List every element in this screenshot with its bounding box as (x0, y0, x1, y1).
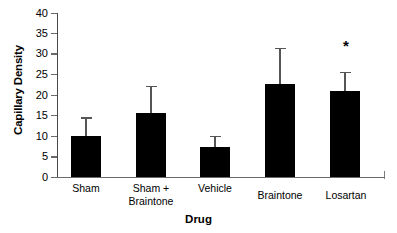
plot-area: 0 5 10 15 20 25 30 35 40 * (0, 0, 397, 233)
x-tick-label-vehicle: Vehicle (181, 182, 249, 195)
x-tick-label-braintone: Braintone (245, 189, 315, 202)
error-bar-stem-losartan (344, 72, 345, 91)
y-tick-mark (51, 177, 57, 178)
y-tick-label: 5 (12, 150, 48, 162)
bar-losartan (330, 91, 360, 177)
x-tick-label-line: Braintone (245, 189, 315, 202)
significance-asterisk: * (334, 38, 358, 53)
bar-chart-figure: Capillary Density 0 5 10 15 20 25 30 35 … (0, 0, 397, 233)
y-tick-mark (51, 95, 57, 96)
x-axis-line (57, 177, 385, 178)
y-axis-line (57, 13, 58, 178)
y-tick-label: 30 (12, 47, 48, 59)
y-tick-label: 35 (12, 27, 48, 39)
bar-vehicle (200, 147, 230, 177)
y-tick-label: 10 (12, 130, 48, 142)
x-axis-label: Drug (0, 213, 397, 225)
y-tick-label: 25 (12, 68, 48, 80)
error-bar-cap-losartan (340, 72, 351, 73)
x-tick-label-sham: Sham (52, 182, 120, 195)
y-tick-mark (51, 53, 57, 54)
bar-sham (71, 136, 101, 177)
bar-braintone (265, 84, 295, 177)
error-bar-cap-sham-braintone (146, 86, 157, 87)
y-tick-mark (51, 115, 57, 116)
y-tick-mark (51, 13, 57, 14)
x-tick-label-line: Vehicle (181, 182, 249, 195)
y-tick-mark (51, 33, 57, 34)
y-tick-label: 15 (12, 109, 48, 121)
error-bar-cap-sham (81, 117, 92, 118)
y-tick-mark (51, 74, 57, 75)
x-tick-label-line: Sham + (115, 182, 187, 195)
x-tick-label-losartan: Losartan (311, 189, 381, 202)
error-bar-stem-sham (85, 117, 86, 136)
error-bar-stem-braintone (279, 48, 280, 84)
x-tick-label-sham-braintone: Sham + Braintone (115, 182, 187, 207)
x-tick-label-line: Sham (52, 182, 120, 195)
y-tick-label: 20 (12, 89, 48, 101)
y-tick-label: 0 (12, 171, 48, 183)
error-bar-stem-vehicle (214, 136, 215, 147)
error-bar-cap-braintone (275, 48, 286, 49)
bar-sham-braintone (136, 113, 166, 177)
x-tick-label-line: Braintone (115, 195, 187, 208)
y-tick-label: 40 (12, 7, 48, 19)
y-tick-mark (51, 156, 57, 157)
x-axis-end-tick (384, 171, 385, 179)
x-tick-label-line: Losartan (311, 189, 381, 202)
y-tick-mark (51, 136, 57, 137)
error-bar-stem-sham-braintone (150, 86, 151, 113)
error-bar-cap-vehicle (210, 136, 221, 137)
